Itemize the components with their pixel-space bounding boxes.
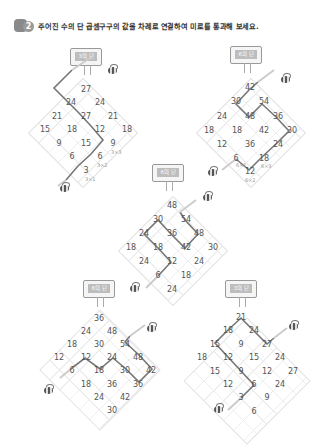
maze-cell: 24 [275, 380, 285, 389]
maze-cell: 6 [251, 380, 256, 389]
maze-cell: 15 [249, 353, 259, 362]
maze-cell: 15 [210, 340, 220, 349]
maze-cell: 21 [236, 313, 246, 322]
maze-cell: 24 [275, 353, 285, 362]
maze-cell: 27 [262, 340, 272, 349]
maze-cell: 12 [223, 353, 233, 362]
maze-cell: 15 [210, 367, 220, 376]
maze-cell: 24 [249, 326, 259, 335]
maze-cell: 9 [238, 367, 243, 376]
maze-cell: 9 [238, 340, 243, 349]
maze-cell: 18 [197, 353, 207, 362]
maze-cell: 9 [264, 393, 269, 402]
maze-cell: 12 [223, 380, 233, 389]
maze-cell: 18 [223, 326, 233, 335]
bee-start-icon [212, 403, 226, 415]
maze-cell: 6 [251, 407, 256, 416]
maze-cell: 27 [288, 367, 298, 376]
maze-cell: 3 [238, 393, 243, 402]
maze-cell: 12 [262, 367, 272, 376]
bee-goal-icon [287, 320, 301, 332]
